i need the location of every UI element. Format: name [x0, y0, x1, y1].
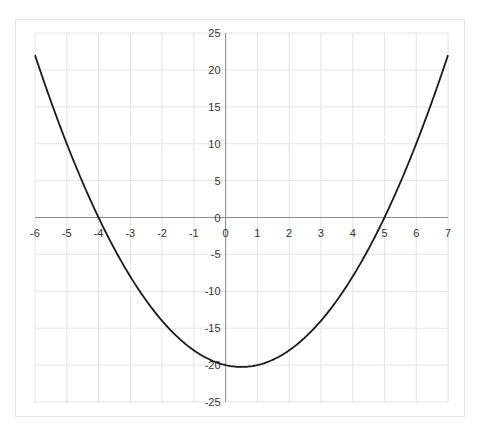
x-tick-label: 7 — [445, 227, 451, 239]
y-tick-label: -25 — [205, 396, 221, 408]
y-tick-label: 15 — [208, 101, 220, 113]
x-tick-label: -1 — [189, 227, 199, 239]
x-tick-label: -2 — [157, 227, 167, 239]
x-tick-label: 3 — [318, 227, 324, 239]
x-tick-label: 2 — [286, 227, 292, 239]
x-tick-label: 0 — [223, 227, 229, 239]
x-tick-label: 1 — [254, 227, 260, 239]
x-axis-tick-labels: -6-5-4-3-2-101234567 — [30, 227, 451, 239]
y-tick-label: 0 — [214, 212, 220, 224]
y-tick-label: 5 — [214, 175, 220, 187]
y-tick-label: -10 — [205, 285, 221, 297]
x-tick-label: -5 — [62, 227, 72, 239]
y-tick-label: 20 — [208, 64, 220, 76]
axes — [35, 33, 448, 402]
x-tick-label: 5 — [381, 227, 387, 239]
x-tick-label: 6 — [413, 227, 419, 239]
function-plot: -6-5-4-3-2-101234567 2520151050-5-10-15-… — [0, 0, 479, 429]
x-tick-label: -6 — [30, 227, 40, 239]
y-tick-label: -15 — [205, 322, 221, 334]
x-tick-label: -3 — [125, 227, 135, 239]
x-tick-label: -4 — [94, 227, 104, 239]
y-tick-label: 25 — [208, 27, 220, 39]
parabola-curve — [35, 55, 448, 367]
y-tick-label: -5 — [211, 248, 221, 260]
x-tick-label: 4 — [350, 227, 356, 239]
y-tick-label: 10 — [208, 138, 220, 150]
